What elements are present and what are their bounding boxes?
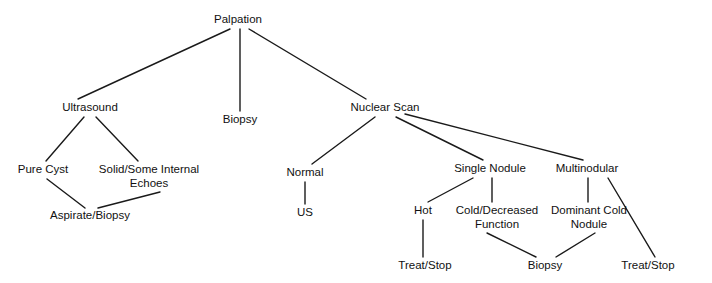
node-pure_cyst: Pure Cyst	[18, 163, 69, 175]
edge-single_nodule-to-hot	[428, 178, 473, 202]
node-label-line: Cold/Decreased	[456, 204, 538, 216]
edge-dominant_cold-to-biopsy_bottom	[556, 233, 595, 257]
node-dominant_cold: Dominant ColdNodule	[551, 204, 627, 230]
node-treat_stop_r: Treat/Stop	[621, 259, 674, 271]
node-label-line: Hot	[414, 204, 433, 216]
node-biopsy_top: Biopsy	[223, 113, 258, 125]
node-nuclear_scan: Nuclear Scan	[350, 101, 419, 113]
node-label-line: Treat/Stop	[621, 259, 674, 271]
node-label-line: Single Nodule	[454, 162, 526, 174]
node-single_nodule: Single Nodule	[454, 162, 526, 174]
node-label-line: Dominant Cold	[551, 204, 627, 216]
node-label-line: Pure Cyst	[18, 163, 69, 175]
node-label-line: Palpation	[214, 13, 262, 25]
node-label-line: Biopsy	[223, 113, 258, 125]
node-us: US	[297, 206, 313, 218]
tree-diagram: PalpationUltrasoundBiopsyNuclear ScanPur…	[0, 0, 712, 283]
node-label-line: Solid/Some Internal	[99, 163, 199, 175]
node-label-line: Normal	[286, 166, 323, 178]
node-ultrasound: Ultrasound	[62, 101, 118, 113]
edge-ultrasound-to-solid_echoes	[96, 117, 138, 161]
edge-palpation-to-ultrasound	[78, 29, 230, 99]
edge-palpation-to-nuclear_scan	[249, 29, 366, 99]
node-label-line: Function	[475, 218, 519, 230]
node-biopsy_bottom: Biopsy	[528, 259, 563, 271]
edge-nuclear_scan-to-normal	[312, 117, 375, 164]
edges-layer	[46, 29, 655, 257]
edge-cold_decreased-to-biopsy_bottom	[487, 233, 536, 257]
flowchart-canvas: PalpationUltrasoundBiopsyNuclear ScanPur…	[0, 0, 712, 283]
node-solid_echoes: Solid/Some InternalEchoes	[99, 163, 199, 189]
node-label-line: Treat/Stop	[398, 259, 451, 271]
node-label-line: Aspirate/Biopsy	[50, 209, 130, 221]
node-label-line: Nodule	[571, 218, 607, 230]
node-treat_stop_l: Treat/Stop	[398, 259, 451, 271]
edge-pure_cyst-to-aspirate	[47, 179, 85, 208]
node-multinodular: Multinodular	[556, 162, 619, 174]
edge-nuclear_scan-to-multinodular	[405, 114, 583, 160]
node-label-line: Nuclear Scan	[350, 101, 419, 113]
nodes-layer: PalpationUltrasoundBiopsyNuclear ScanPur…	[18, 13, 675, 271]
node-label-line: Ultrasound	[62, 101, 118, 113]
node-label-line: Biopsy	[528, 259, 563, 271]
node-normal: Normal	[286, 166, 323, 178]
edge-ultrasound-to-pure_cyst	[46, 117, 84, 161]
node-aspirate: Aspirate/Biopsy	[50, 209, 130, 221]
node-hot: Hot	[414, 204, 433, 216]
edge-multinodular-to-treat_stop_r	[608, 178, 655, 257]
node-label-line: US	[297, 206, 313, 218]
node-label-line: Multinodular	[556, 162, 619, 174]
edge-solid_echoes-to-aspirate	[98, 192, 160, 208]
node-cold_decreased: Cold/DecreasedFunction	[456, 204, 538, 230]
node-palpation: Palpation	[214, 13, 262, 25]
node-label-line: Echoes	[130, 177, 169, 189]
